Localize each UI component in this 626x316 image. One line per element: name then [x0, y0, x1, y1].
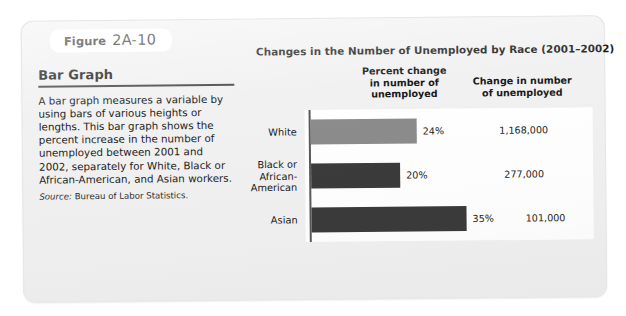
- figure-card-inner: Figure 2A-10 Bar Graph A bar graph measu…: [22, 16, 607, 302]
- column-header-change-line-2: of unemployed: [462, 86, 582, 99]
- bar-label-asian-line-1: Asian: [224, 214, 298, 226]
- source-text: Bureau of Labor Statistics.: [75, 190, 189, 201]
- chart-column: Changes in the Number of Unemployed by R…: [244, 42, 602, 242]
- bar-row-white: White 24% 1,168,000: [305, 107, 593, 154]
- column-header-change-in-number: Change in number of unemployed: [462, 74, 582, 98]
- column-header-percent-line-1: Percent change: [352, 65, 456, 78]
- bar-row-asian: Asian 35% 101,000: [305, 195, 593, 242]
- bar-label-black-or-african-american: Black or African- American: [223, 159, 297, 194]
- bar-label-black-line-2: African-: [223, 170, 297, 182]
- bar-value-black-or-african-american: 20%: [406, 169, 427, 180]
- page-background: Figure 2A-10 Bar Graph A bar graph measu…: [0, 0, 626, 316]
- bar-value-white: 24%: [423, 125, 444, 136]
- figure-number: 2A-10: [112, 32, 156, 48]
- bar-count-white: 1,168,000: [469, 124, 579, 136]
- bar-row-black-or-african-american: Black or African- American 20% 277,000: [305, 151, 593, 198]
- bar-value-asian: 35%: [473, 213, 494, 224]
- bar-label-black-line-3: American: [223, 182, 297, 194]
- bar-label-white-line-1: White: [223, 126, 297, 138]
- column-header-percent-line-3: unemployed: [352, 88, 456, 101]
- figure-card: Figure 2A-10 Bar Graph A bar graph measu…: [21, 15, 608, 303]
- column-header-change-line-1: Change in number: [462, 74, 582, 87]
- bar-white: [310, 119, 416, 145]
- bar-label-asian: Asian: [224, 214, 298, 226]
- bar-label-black-line-1: Black or: [223, 159, 297, 171]
- chart-column-headers: Percent change in number of unemployed C…: [244, 63, 600, 108]
- column-header-percent-line-2: in number of: [352, 76, 456, 89]
- panel-heading: Bar Graph: [38, 66, 250, 83]
- explanation-column: Bar Graph A bar graph measures a variabl…: [38, 66, 251, 202]
- chart-plot-area: White 24% 1,168,000 Black or African- Am…: [305, 107, 594, 242]
- bar-count-black-or-african-american: 277,000: [469, 168, 579, 180]
- bar-count-asian: 101,000: [506, 212, 586, 224]
- figure-label-word: Figure: [64, 34, 106, 48]
- column-header-percent-change: Percent change in number of unemployed: [352, 65, 456, 101]
- panel-body-text: A bar graph measures a variable by using…: [38, 92, 235, 186]
- source-label: Source:: [39, 191, 72, 201]
- chart-title: Changes in the Number of Unemployed by R…: [256, 42, 600, 57]
- bar-asian: [311, 206, 466, 232]
- figure-number-badge: Figure 2A-10: [50, 28, 173, 52]
- bar-label-white: White: [223, 126, 297, 138]
- source-note: Source: Bureau of Labor Statistics.: [39, 190, 235, 202]
- bar-black-or-african-american: [311, 163, 400, 189]
- heading-divider: [38, 84, 234, 87]
